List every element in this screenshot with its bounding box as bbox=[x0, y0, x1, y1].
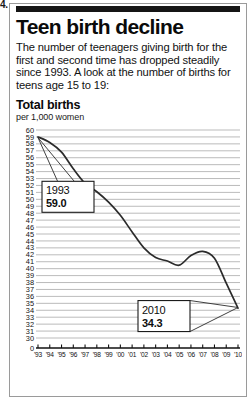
chart-unit-label: per 1,000 women bbox=[16, 112, 240, 123]
callout-1993-year: 1993 bbox=[46, 185, 69, 197]
x-tick-02: '02 bbox=[140, 351, 149, 358]
x-tick-06: '06 bbox=[187, 351, 196, 358]
callout-2010: 201034.3 bbox=[138, 301, 238, 332]
infographic-panel: Teen birth decline The number of teenage… bbox=[9, 3, 247, 397]
deck-paragraph: The number of teenagers giving birth for… bbox=[16, 41, 240, 91]
y-tick-30: 30 bbox=[26, 334, 34, 343]
line-chart: 6059585756555453525150494847464544434241… bbox=[16, 124, 242, 376]
callout-1993: 199359.0 bbox=[38, 138, 94, 213]
x-tick-95: '95 bbox=[58, 351, 67, 358]
x-tick-03: '03 bbox=[152, 351, 161, 358]
x-tick-10: '10 bbox=[234, 351, 242, 358]
chart-x-axis-labels: '93'94'95'96'97'98'99'00'01'02'03'04'05'… bbox=[34, 351, 242, 358]
x-tick-99: '99 bbox=[105, 351, 114, 358]
x-tick-09: '09 bbox=[222, 351, 231, 358]
chart-svg: 6059585756555453525150494847464544434241… bbox=[16, 124, 242, 376]
top-divider-rule bbox=[16, 6, 240, 12]
callout-1993-value: 59.0 bbox=[46, 198, 66, 210]
headline: Teen birth decline bbox=[16, 16, 240, 38]
x-tick-94: '94 bbox=[46, 351, 55, 358]
infographic-content: Teen birth decline The number of teenage… bbox=[10, 4, 246, 396]
x-tick-93: '93 bbox=[34, 351, 43, 358]
x-tick-07: '07 bbox=[199, 351, 208, 358]
page-number-artifact: 4. bbox=[0, 0, 8, 10]
chart-title: Total births bbox=[16, 99, 240, 112]
x-tick-04: '04 bbox=[163, 351, 172, 358]
chart-y-axis-labels: 6059585756555453525150494847464544434241… bbox=[26, 126, 34, 353]
x-tick-01: '01 bbox=[128, 351, 137, 358]
x-tick-08: '08 bbox=[210, 351, 219, 358]
x-tick-00: '00 bbox=[116, 351, 125, 358]
callout-2010-year: 2010 bbox=[142, 304, 165, 316]
x-tick-96: '96 bbox=[69, 351, 78, 358]
x-tick-05: '05 bbox=[175, 351, 184, 358]
x-tick-98: '98 bbox=[93, 351, 102, 358]
x-tick-97: '97 bbox=[81, 351, 90, 358]
callout-2010-value: 34.3 bbox=[142, 317, 162, 329]
